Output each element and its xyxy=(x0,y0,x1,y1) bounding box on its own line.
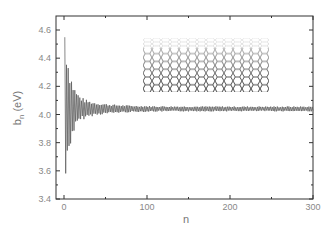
y-tick-label: 4.0 xyxy=(38,110,51,120)
y-tick-label: 4.6 xyxy=(38,25,51,35)
chart: 3.43.63.84.04.24.44.6 0100200300 n bn (e… xyxy=(0,0,331,231)
y-tick-label: 4.4 xyxy=(38,53,51,63)
x-tick-label: 0 xyxy=(61,202,66,212)
y-tick-label: 4.2 xyxy=(38,81,51,91)
y-tick-label: 3.4 xyxy=(38,194,51,204)
x-tick-label: 200 xyxy=(222,202,237,212)
x-tick-label: 100 xyxy=(139,202,154,212)
y-tick-label: 3.8 xyxy=(38,138,51,148)
graphene-lattice-image xyxy=(143,38,269,92)
y-axis-label: bn (eV) xyxy=(11,91,26,125)
x-axis-label: n xyxy=(183,213,189,225)
y-tick-label: 3.6 xyxy=(38,166,51,176)
x-tick-label: 300 xyxy=(305,202,320,212)
